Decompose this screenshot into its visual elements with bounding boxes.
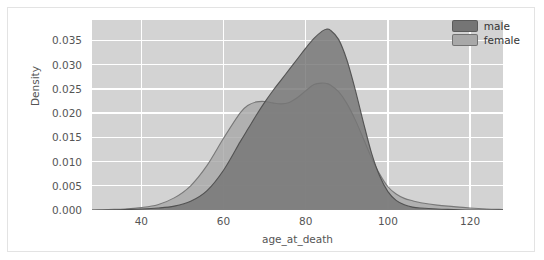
legend-swatch-male xyxy=(452,20,478,32)
plot-area xyxy=(92,20,503,210)
figure-panel: 0.0000.0050.0100.0150.0200.0250.0300.035… xyxy=(7,7,535,252)
y-tick-label-3: 0.015 xyxy=(8,132,82,142)
density-curves xyxy=(92,20,503,210)
y-tick-label-7: 0.035 xyxy=(8,35,82,45)
y-tick-label-0: 0.000 xyxy=(8,205,82,215)
density-area-male xyxy=(92,29,503,210)
x-tick-label-4: 120 xyxy=(445,216,495,227)
y-axis-label: Density xyxy=(29,31,41,141)
x-tick-label-0: 40 xyxy=(116,216,166,227)
legend-item-female[interactable]: female xyxy=(452,34,520,46)
y-tick-label-2: 0.010 xyxy=(8,157,82,167)
y-tick-label-6: 0.030 xyxy=(8,60,82,70)
legend-label-male: male xyxy=(484,21,510,32)
legend: malefemale xyxy=(447,16,526,50)
legend-item-male[interactable]: male xyxy=(452,20,520,32)
x-tick-label-1: 60 xyxy=(199,216,249,227)
y-tick-label-5: 0.025 xyxy=(8,84,82,94)
x-tick-label-2: 80 xyxy=(281,216,331,227)
x-axis-label: age_at_death xyxy=(92,233,503,245)
legend-swatch-female xyxy=(452,34,478,46)
legend-label-female: female xyxy=(484,35,520,46)
y-tick-label-4: 0.020 xyxy=(8,108,82,118)
x-tick-label-3: 100 xyxy=(363,216,413,227)
y-tick-label-1: 0.005 xyxy=(8,181,82,191)
